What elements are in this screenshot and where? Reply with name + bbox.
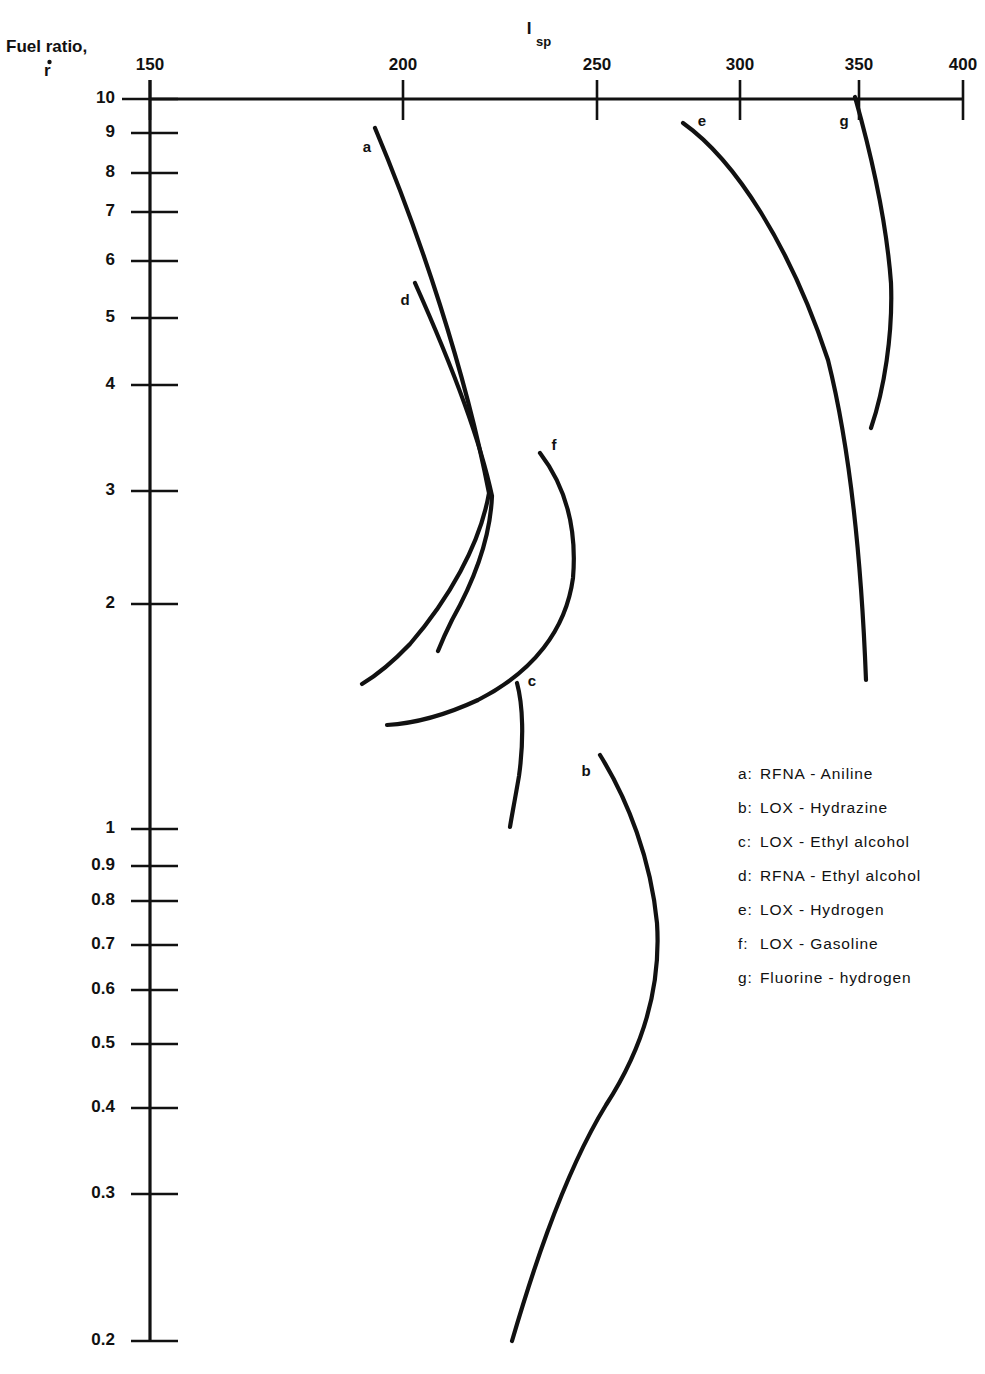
x-tick-label-300: 300 xyxy=(726,55,754,74)
y-tick-label-5: 5 xyxy=(106,307,115,326)
y-tick-label-0.8: 0.8 xyxy=(91,890,115,909)
legend-item-b: b: LOX - Hydrazine xyxy=(738,799,978,817)
y-tick-label-9: 9 xyxy=(106,122,115,141)
legend-key-b: b: xyxy=(738,799,760,817)
y-tick-label-0.6: 0.6 xyxy=(91,979,115,998)
legend-key-e: e: xyxy=(738,901,760,919)
legend-label-a: RFNA - Aniline xyxy=(760,765,873,783)
legend-label-f: LOX - Gasoline xyxy=(760,935,879,953)
y-tick-label-6: 6 xyxy=(106,250,115,269)
figure-caption xyxy=(0,1364,985,1374)
legend-item-g: g: Fluorine - hydrogen xyxy=(738,969,978,987)
legend-key-f: f: xyxy=(738,935,760,953)
y-tick-label-1: 1 xyxy=(106,818,115,837)
y-tick-label-7: 7 xyxy=(106,201,115,220)
x-tick-label-400: 400 xyxy=(949,55,977,74)
y-axis-title-line1: Fuel ratio, xyxy=(6,37,87,56)
x-tick-label-200: 200 xyxy=(389,55,417,74)
legend-label-g: Fluorine - hydrogen xyxy=(760,969,912,987)
legend-label-b: LOX - Hydrazine xyxy=(760,799,888,817)
y-tick-label-0.3: 0.3 xyxy=(91,1183,115,1202)
curve-label-a: a xyxy=(363,138,372,155)
legend-key-d: d: xyxy=(738,867,760,885)
x-tick-label-350: 350 xyxy=(845,55,873,74)
curve-e-lox-hydrogen xyxy=(683,123,866,680)
curve-d-rfna-ethyl-alcohol xyxy=(415,283,492,651)
legend-item-c: c: LOX - Ethyl alcohol xyxy=(738,833,978,851)
r-dot-accent-icon xyxy=(47,60,51,64)
curve-b-lox-hydrazine xyxy=(512,755,658,1341)
y-tick-label-0.4: 0.4 xyxy=(91,1097,115,1116)
legend-key-c: c: xyxy=(738,833,760,851)
curve-label-b: b xyxy=(581,762,590,779)
chart-title-base: I xyxy=(527,19,532,38)
curve-g-fluorine-hydrogen xyxy=(855,97,891,428)
legend-key-a: a: xyxy=(738,765,760,783)
data-curves-group xyxy=(362,97,891,1341)
chart-title-subscript: sp xyxy=(536,34,551,49)
curve-f-lox-gasoline xyxy=(387,453,574,725)
x-tick-label-250: 250 xyxy=(583,55,611,74)
curve-annotations-group: a b c d e f g xyxy=(363,112,849,779)
legend-label-c: LOX - Ethyl alcohol xyxy=(760,833,910,851)
y-tick-label-0.5: 0.5 xyxy=(91,1033,115,1052)
legend-label-d: RFNA - Ethyl alcohol xyxy=(760,867,921,885)
chart-canvas: 150 200 250 300 350 400 I sp Fuel ratio,… xyxy=(0,0,985,1374)
curve-label-e: e xyxy=(698,112,706,129)
curve-label-f: f xyxy=(552,436,558,453)
curve-c-lox-ethyl-alcohol xyxy=(510,683,522,827)
legend-label-e: LOX - Hydrogen xyxy=(760,901,885,919)
y-tick-label-10: 10 xyxy=(96,88,115,107)
legend-item-f: f: LOX - Gasoline xyxy=(738,935,978,953)
legend-key-g: g: xyxy=(738,969,760,987)
legend: a: RFNA - Aniline b: LOX - Hydrazine c: … xyxy=(738,765,978,1003)
y-tick-label-0.2: 0.2 xyxy=(91,1330,115,1349)
y-tick-label-3: 3 xyxy=(106,480,115,499)
y-tick-label-4: 4 xyxy=(106,374,116,393)
y-tick-label-8: 8 xyxy=(106,162,115,181)
axes-group xyxy=(150,80,963,1341)
y-tick-label-0.7: 0.7 xyxy=(91,934,115,953)
curve-label-c: c xyxy=(528,672,536,689)
curve-label-g: g xyxy=(839,112,848,129)
x-tick-label-150: 150 xyxy=(136,55,164,74)
y-axis-title: Fuel ratio, r xyxy=(6,37,87,80)
curve-label-d: d xyxy=(400,291,409,308)
chart-title: I sp xyxy=(527,19,552,49)
chart-page: 150 200 250 300 350 400 I sp Fuel ratio,… xyxy=(0,0,985,1374)
x-tick-labels-group: 150 200 250 300 350 400 xyxy=(136,55,977,74)
y-tick-label-2: 2 xyxy=(106,593,115,612)
y-tick-label-0.9: 0.9 xyxy=(91,855,115,874)
y-tick-labels-group: 10 9 8 7 6 5 4 3 2 1 0.9 0.8 0.7 0.6 0.5… xyxy=(91,88,115,1349)
legend-item-a: a: RFNA - Aniline xyxy=(738,765,978,783)
legend-item-e: e: LOX - Hydrogen xyxy=(738,901,978,919)
legend-item-d: d: RFNA - Ethyl alcohol xyxy=(738,867,978,885)
curve-a-rfna-aniline xyxy=(362,128,489,684)
